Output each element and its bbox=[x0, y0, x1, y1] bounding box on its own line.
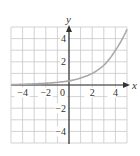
y-axis-label: y bbox=[65, 13, 71, 25]
y-tick-label: −4 bbox=[55, 126, 66, 137]
x-tick-label: −4 bbox=[17, 87, 28, 98]
x-tick-label: 4 bbox=[113, 87, 118, 98]
x-tick-label: −2 bbox=[40, 87, 51, 98]
y-tick-label: 2 bbox=[61, 56, 66, 67]
x-axis-arrow-icon bbox=[123, 82, 130, 88]
y-tick-label: −2 bbox=[55, 103, 66, 114]
axes: x y bbox=[11, 13, 137, 144]
x-tick-label: 0 bbox=[60, 87, 65, 98]
y-axis-arrow-icon bbox=[66, 25, 72, 32]
x-axis-label: x bbox=[131, 79, 137, 91]
x-tick-label: 2 bbox=[90, 87, 95, 98]
exponential-graph: x y −4−202442−2−4 bbox=[0, 0, 140, 156]
y-tick-label: 4 bbox=[61, 33, 66, 44]
